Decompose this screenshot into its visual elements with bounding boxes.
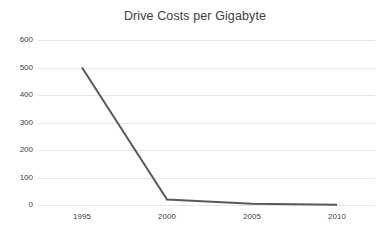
data-series-layer <box>0 0 390 243</box>
plot-area: 6005004003002001000 1995200020052010 <box>0 0 390 243</box>
line-series-drive-costs <box>82 68 337 205</box>
chart-container: Drive Costs per Gigabyte 600500400300200… <box>0 0 390 243</box>
